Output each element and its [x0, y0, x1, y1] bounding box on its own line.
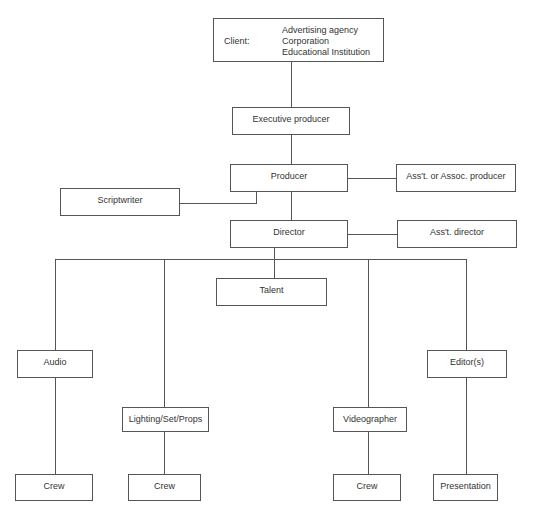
audio-box: Audio [17, 350, 93, 378]
client-label: Client: [224, 25, 282, 61]
videographer-box: Videographer [333, 407, 407, 432]
connector [55, 259, 467, 260]
client-option: Corporation [282, 36, 370, 47]
presentation-box: Presentation [433, 474, 498, 501]
connector [164, 432, 165, 474]
connector [348, 178, 396, 179]
assistant-producer-box: Ass't. or Assoc. producer [396, 164, 516, 192]
connector [368, 432, 369, 474]
connector [466, 378, 467, 474]
executive-producer-box: Executive producer [232, 107, 350, 135]
scriptwriter-box: Scriptwriter [60, 188, 180, 216]
connector [368, 259, 369, 407]
talent-box: Talent [216, 278, 327, 306]
connector [164, 259, 165, 407]
editor-box: Editor(s) [427, 350, 507, 378]
client-option: Advertising agency [282, 25, 370, 36]
director-box: Director [230, 220, 348, 248]
connector [180, 203, 257, 204]
crew-box: Crew [333, 474, 401, 501]
connector [291, 62, 292, 107]
crew-box: Crew [15, 474, 93, 501]
lighting-set-props-box: Lighting/Set/Props [122, 407, 209, 432]
client-option: Educational Institution [282, 47, 370, 58]
crew-box: Crew [128, 474, 201, 501]
client-box: Client: Advertising agency Corporation E… [213, 18, 384, 62]
connector [348, 234, 397, 235]
connector [291, 192, 292, 220]
connector [291, 135, 292, 164]
assistant-director-box: Ass't. director [397, 220, 517, 248]
connector [274, 248, 275, 278]
connector [55, 259, 56, 350]
connector [55, 378, 56, 474]
connector [466, 259, 467, 350]
producer-box: Producer [230, 164, 348, 192]
